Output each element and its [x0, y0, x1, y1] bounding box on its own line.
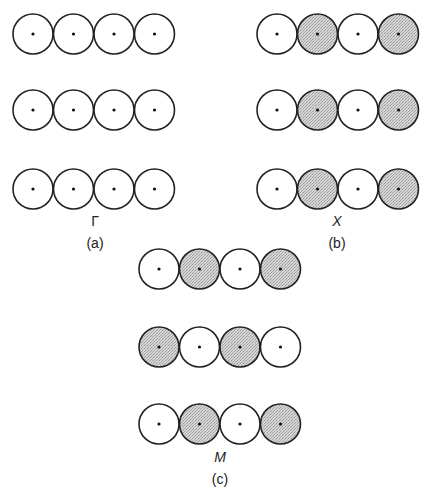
atom-center-dot — [397, 187, 400, 190]
atom-center-dot — [112, 32, 115, 35]
atom-center-dot — [198, 267, 201, 270]
panel-a-gamma — [13, 14, 175, 209]
atom-center-dot — [356, 32, 359, 35]
atom-center-dot — [356, 108, 359, 111]
atom-center-dot — [279, 345, 282, 348]
panel-b-x — [257, 14, 419, 209]
panel-b-symbol: X — [331, 213, 342, 229]
atom-center-dot — [275, 32, 278, 35]
atom-center-dot — [157, 422, 160, 425]
atom-center-dot — [279, 267, 282, 270]
atom-center-dot — [153, 108, 156, 111]
atom-center-dot — [198, 345, 201, 348]
atom-center-dot — [275, 108, 278, 111]
atom-center-dot — [238, 345, 241, 348]
panel-c-caption: (c) — [212, 471, 228, 487]
panel-a-caption: (a) — [86, 235, 103, 251]
atom-center-dot — [31, 187, 34, 190]
atom-center-dot — [238, 422, 241, 425]
atom-center-dot — [112, 187, 115, 190]
panel-a-symbol: Γ — [91, 213, 99, 229]
atom-center-dot — [153, 32, 156, 35]
atom-center-dot — [397, 32, 400, 35]
atom-center-dot — [31, 108, 34, 111]
atom-center-dot — [153, 187, 156, 190]
panel-c-m — [139, 249, 301, 444]
atom-center-dot — [316, 187, 319, 190]
atom-center-dot — [72, 108, 75, 111]
atom-center-dot — [279, 422, 282, 425]
atom-center-dot — [72, 187, 75, 190]
atom-center-dot — [356, 187, 359, 190]
lattice-diagram: Γ (a) X (b) M (c) — [0, 0, 433, 496]
atom-center-dot — [316, 32, 319, 35]
atom-center-dot — [31, 32, 34, 35]
atom-center-dot — [275, 187, 278, 190]
atom-center-dot — [316, 108, 319, 111]
atom-center-dot — [157, 345, 160, 348]
atom-center-dot — [397, 108, 400, 111]
atom-center-dot — [72, 32, 75, 35]
atom-center-dot — [238, 267, 241, 270]
atom-center-dot — [157, 267, 160, 270]
panel-b-caption: (b) — [328, 235, 345, 251]
atom-center-dot — [112, 108, 115, 111]
panel-c-symbol: M — [214, 449, 226, 465]
atom-center-dot — [198, 422, 201, 425]
